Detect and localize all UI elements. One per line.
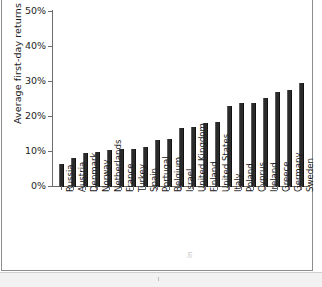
x-axis-tick-label: United States [222,134,231,192]
x-axis-tick [85,186,86,190]
y-axis-tick [48,151,53,152]
x-axis-tick-label: United Kingdom [198,123,207,192]
margin-note: in [186,252,194,258]
x-axis-tick [157,186,158,190]
x-axis-tick-label: Netherlands [114,140,123,192]
y-axis-tick [48,116,53,117]
y-axis-tick [48,46,53,47]
x-axis-tick [97,186,98,190]
x-axis-tick [289,186,290,190]
y-axis-tick [48,11,53,12]
x-axis-tick [109,186,110,190]
x-axis-tick [217,186,218,190]
x-axis-tick [301,186,302,190]
x-axis-tick [145,186,146,190]
x-axis-tick [169,186,170,190]
y-axis-tick [48,186,53,187]
x-axis-tick [133,186,134,190]
x-axis-tick-label: Sweden [306,158,315,192]
x-axis-tick [193,186,194,190]
x-axis-tick [121,186,122,190]
x-axis-tick [253,186,254,190]
x-axis-tick [277,186,278,190]
x-axis-tick [265,186,266,190]
x-axis-tick [181,186,182,190]
y-axis-tick [48,81,53,82]
x-axis-tick [229,186,230,190]
x-axis-tick [73,186,74,190]
x-axis-tick [61,186,62,190]
x-axis-tick [205,186,206,190]
x-axis-tick [241,186,242,190]
